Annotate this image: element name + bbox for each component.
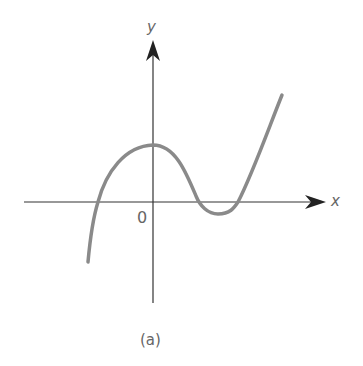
x-axis-label: x <box>331 194 340 209</box>
y-axis-label: y <box>147 20 156 35</box>
graph-canvas <box>0 0 363 366</box>
origin-label: 0 <box>137 210 147 226</box>
function-curve <box>88 95 282 262</box>
figure-caption: (a) <box>140 333 161 348</box>
cubic-function-graph: y x 0 (a) <box>0 0 363 366</box>
